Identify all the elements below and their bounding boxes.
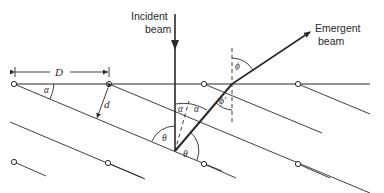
emergent-beam (232, 32, 310, 84)
incident-arrow-icon (171, 40, 179, 50)
label-emergent: Emergent (315, 22, 361, 34)
label-alpha-center-1: α (178, 104, 184, 114)
diffraction-diagram: D d α Incident beam Emergent beam ϕ ϕ' α… (0, 0, 384, 193)
angle-theta-arc-right (190, 132, 199, 160)
label-incident: Incident (131, 10, 168, 22)
atom-markers (11, 81, 300, 166)
label-emergent-beam: beam (318, 35, 345, 47)
label-theta-right: θ (183, 149, 188, 159)
label-phi: ϕ (235, 61, 240, 71)
label-D: D (54, 66, 63, 78)
spacing-d-dimension: d (97, 88, 110, 118)
label-incident-beam: beam (145, 23, 172, 35)
angle-alpha-arc-left (50, 84, 54, 99)
label-alpha-center-2: α (194, 104, 200, 114)
label-phi-prime: ϕ' (219, 96, 227, 106)
diffracted-ray-internal (175, 84, 232, 151)
label-theta-left: θ (162, 133, 167, 143)
label-alpha-left: α (44, 85, 50, 95)
label-d: d (104, 98, 110, 110)
spacing-D-dimension: D (15, 66, 109, 78)
